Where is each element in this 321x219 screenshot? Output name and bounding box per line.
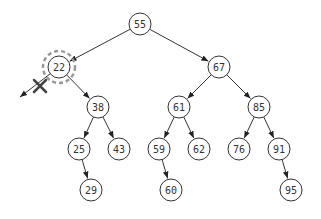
tree-node-55: 55 (129, 13, 151, 35)
tree-node-76: 76 (228, 138, 250, 160)
node-label: 76 (233, 144, 245, 155)
tree-node-59: 59 (148, 138, 170, 160)
tree-node-60: 60 (160, 179, 182, 201)
edge-85-91 (264, 117, 274, 138)
edge-67-61 (187, 75, 211, 99)
tree-node-85: 85 (248, 96, 270, 118)
tree-node-61: 61 (168, 96, 190, 118)
edge-67-85 (227, 75, 251, 99)
edge-91-95 (282, 160, 288, 179)
tree-diagram: 552267386185254359627691296095 (0, 0, 321, 219)
edge-22-38 (67, 75, 90, 99)
edge-38-43 (103, 117, 114, 138)
node-label: 29 (85, 185, 97, 196)
node-label: 38 (92, 102, 104, 113)
edge-55-67 (150, 29, 209, 61)
tree-node-67: 67 (208, 56, 230, 78)
edge-55-22 (70, 29, 131, 61)
edge-25-29 (82, 160, 88, 179)
node-label: 61 (173, 102, 185, 113)
tree-node-29: 29 (80, 179, 102, 201)
node-label: 85 (253, 102, 265, 113)
tree-node-43: 43 (108, 138, 130, 160)
node-label: 55 (134, 19, 146, 30)
node-label: 25 (73, 144, 85, 155)
tree-node-62: 62 (188, 138, 210, 160)
tree-node-38: 38 (87, 96, 109, 118)
node-label: 22 (53, 62, 65, 73)
node-label: 95 (285, 185, 297, 196)
removed-edge (20, 74, 50, 97)
node-label: 43 (113, 144, 125, 155)
tree-node-95: 95 (280, 179, 302, 201)
tree-node-25: 25 (68, 138, 90, 160)
removed-edge-layer (20, 74, 50, 97)
edge-61-59 (164, 117, 174, 138)
edge-61-62 (184, 117, 194, 138)
node-label: 91 (273, 144, 285, 155)
edge-85-76 (244, 117, 254, 138)
node-label: 60 (165, 185, 177, 196)
node-label: 62 (193, 144, 205, 155)
node-label: 67 (213, 62, 225, 73)
edge-59-60 (162, 160, 168, 179)
tree-node-91: 91 (268, 138, 290, 160)
edge-38-25 (84, 117, 94, 138)
node-label: 59 (153, 144, 165, 155)
